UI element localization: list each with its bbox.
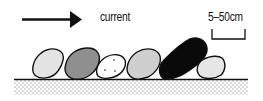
clast-3 — [97, 55, 126, 79]
current-label: current — [100, 10, 130, 24]
current-arrow-icon — [22, 11, 82, 28]
scale-bar — [212, 29, 245, 39]
clast-4 — [127, 49, 160, 79]
substrate-bed — [14, 80, 248, 96]
scale-label: 5–50cm — [208, 10, 243, 24]
clast-2 — [65, 48, 99, 79]
clast-1 — [33, 49, 64, 78]
